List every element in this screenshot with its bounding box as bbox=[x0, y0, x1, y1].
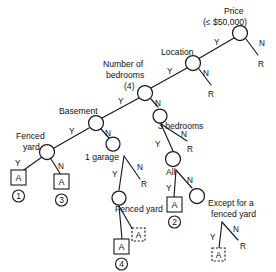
leaf-a2-label: A bbox=[171, 200, 177, 210]
node-label-fenced-yard1-line2: yard bbox=[23, 142, 40, 152]
edge-garage-yes bbox=[119, 156, 124, 190]
node-label-location: Location bbox=[161, 47, 194, 57]
leaf-number-3: 3 bbox=[59, 195, 64, 205]
leaf-a1-label: A bbox=[15, 173, 21, 183]
branch-label-basement-no: N bbox=[105, 129, 111, 138]
node-label-price-line2: (≤ $50,000) bbox=[203, 17, 247, 27]
branch-label-price-no: N bbox=[259, 39, 265, 48]
leaf-number-4: 4 bbox=[119, 259, 124, 269]
node-all[interactable] bbox=[166, 152, 181, 167]
branch-label-garage-reject: R bbox=[141, 180, 147, 189]
branch-label-all-no: N bbox=[187, 176, 193, 185]
branch-label-fy1-yes: Y bbox=[15, 159, 21, 168]
branch-label-garage-yes: Y bbox=[112, 170, 118, 179]
node-label-except-line2: fenced yard bbox=[211, 209, 256, 219]
node-bedrooms[interactable] bbox=[138, 86, 153, 101]
node-label-basement: Basement bbox=[59, 106, 98, 116]
node-price[interactable] bbox=[233, 26, 248, 41]
branch-label-except-reject: R bbox=[240, 242, 246, 251]
leaf-a3-label: A bbox=[58, 177, 64, 187]
node-label-bedrooms-line3: (4) bbox=[124, 81, 135, 91]
branch-label-bedrooms-no: N bbox=[155, 99, 161, 108]
node-label-all: All bbox=[166, 167, 176, 177]
edge-price-no bbox=[246, 39, 258, 55]
node-label-garage: 1 garage bbox=[85, 152, 119, 162]
branch-label-garage-no: N bbox=[137, 163, 143, 172]
node-basement[interactable] bbox=[89, 116, 104, 131]
leaf-a6-label: A bbox=[216, 250, 222, 260]
leaf-number-2: 2 bbox=[172, 217, 177, 227]
node-label-except-line1: Except for a bbox=[208, 198, 254, 208]
branch-label-price-reject: R bbox=[258, 60, 264, 69]
tree-canvas: A 1 A 3 A 4 A A 2 A Price (≤ $50,000) Lo… bbox=[0, 0, 276, 272]
node-label-bedrooms-line1: Number of bbox=[103, 59, 144, 69]
edge-except-yes bbox=[219, 222, 222, 248]
leaf-a4-label: A bbox=[118, 242, 124, 252]
branch-label-fy1-no: N bbox=[58, 162, 64, 171]
branch-label-bedrooms-yes: Y bbox=[118, 97, 124, 106]
node-except-fenced-yard[interactable] bbox=[190, 189, 205, 204]
branch-label-b3-yes: Y bbox=[155, 140, 161, 149]
branch-label-b3-no: N bbox=[181, 130, 187, 139]
branch-label-location-no: N bbox=[203, 69, 209, 78]
leaf-a5-label: A bbox=[136, 230, 142, 240]
leaf-number-1: 1 bbox=[16, 191, 21, 201]
branch-label-except-no: N bbox=[233, 225, 239, 234]
node-label-fenced-yard2: Fenced yard bbox=[115, 204, 163, 214]
decision-tree-diagram: A 1 A 3 A 4 A A 2 A Price (≤ $50,000) Lo… bbox=[0, 0, 276, 272]
node-label-bedrooms-line2: bedrooms bbox=[106, 70, 144, 80]
branch-label-basement-yes: Y bbox=[69, 127, 75, 136]
branch-label-location-yes: Y bbox=[167, 67, 173, 76]
branch-label-b3-reject: R bbox=[187, 145, 193, 154]
node-fenced-yard-1[interactable] bbox=[40, 145, 55, 160]
node-fenced-yard-2[interactable] bbox=[112, 191, 126, 205]
branch-label-all-yes: Y bbox=[166, 184, 172, 193]
node-label-fenced-yard1-line1: Fenced bbox=[16, 131, 45, 141]
branch-label-location-reject: R bbox=[208, 90, 214, 99]
branch-label-price-yes: Y bbox=[214, 38, 220, 47]
node-location[interactable] bbox=[186, 56, 201, 71]
node-label-price-line1: Price bbox=[224, 6, 244, 16]
branch-label-except-yes: Y bbox=[210, 233, 216, 242]
node-garage[interactable] bbox=[106, 137, 120, 151]
